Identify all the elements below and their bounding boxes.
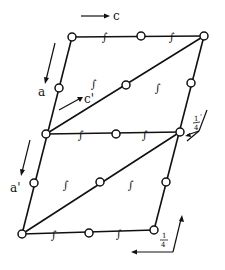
inversion-center-icon — [18, 230, 26, 238]
axis-c-label: c — [113, 9, 120, 23]
fraction-numerator: 1 — [162, 232, 166, 240]
axis-a-prime-indicator: a' — [10, 140, 30, 195]
arrow-up-right-icon — [59, 99, 79, 110]
inversion-center-icon — [68, 33, 76, 41]
arrowhead-icon — [131, 250, 137, 255]
axis-a-prime-label: a' — [10, 181, 20, 195]
arrowhead-icon — [185, 133, 191, 137]
screw-axis-icon: ∫ — [102, 31, 108, 44]
inversion-center-icon — [30, 179, 38, 187]
inversion-center-icon — [150, 226, 158, 234]
screw-axis-icon: ∫ — [128, 179, 134, 192]
inversion-center-icon — [122, 81, 130, 89]
screw-axis-icon: ∫ — [142, 129, 148, 142]
fraction-numerator: 1 — [194, 115, 198, 123]
prime-mark: ' — [200, 113, 202, 121]
arrowhead-icon — [44, 77, 49, 84]
arrowhead-icon — [104, 14, 110, 19]
arrow-down-icon — [22, 140, 30, 172]
inversion-center-icon — [55, 84, 63, 92]
quarter-upper-indicator: 1 4 ' — [185, 110, 207, 141]
screw-axis-icon: ∫ — [91, 78, 97, 91]
arrowhead-icon — [20, 169, 25, 176]
arrow-down-icon — [46, 43, 55, 80]
inversion-center-icon — [42, 130, 50, 138]
screw-axis-icon: ∫ — [155, 82, 161, 95]
inversion-center-icon — [187, 79, 195, 87]
axis-c-prime-label: c' — [84, 92, 94, 106]
arrowhead-icon — [179, 215, 184, 222]
inversion-center-icon — [112, 130, 120, 138]
screw-axis-icon: ∫ — [63, 179, 69, 192]
screw-axis-icon: ∫ — [78, 129, 84, 142]
inversion-center-icon — [85, 229, 93, 237]
inversion-center-icon — [96, 178, 104, 186]
screw-axis-icon: ∫ — [51, 229, 57, 242]
axis-c-indicator: c — [81, 9, 120, 23]
inversion-center-icon — [176, 128, 184, 136]
quarter-lower-indicator: 1 4 — [131, 215, 184, 255]
inversion-center-icon — [162, 178, 170, 186]
diagram-canvas: ∫ ∫ ∫ ∫ ∫ ∫ ∫ ∫ ∫ ∫ — [0, 0, 225, 270]
axis-a-label: a — [38, 85, 45, 99]
screw-axis-icon: ∫ — [116, 228, 122, 241]
inversion-center-icon — [137, 32, 145, 40]
axis-a-indicator: a — [38, 43, 55, 99]
arrow-up-icon — [173, 219, 181, 252]
inversion-center-icon — [200, 32, 208, 40]
fraction-denominator: 4 — [161, 241, 166, 249]
inversion-centers — [18, 32, 208, 238]
screw-axis-icon: ∫ — [169, 31, 175, 44]
unit-cell-diagram: ∫ ∫ ∫ ∫ ∫ ∫ ∫ ∫ ∫ ∫ — [0, 0, 225, 270]
